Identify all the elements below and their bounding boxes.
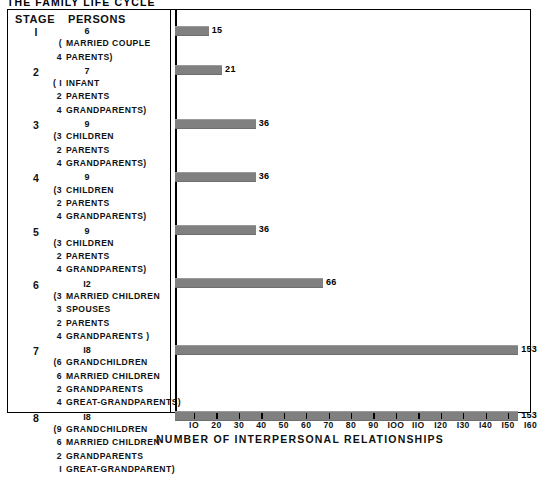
stage-detail-text: MARRIED COUPLE <box>66 38 151 48</box>
x-axis-tick <box>306 413 307 419</box>
bar <box>175 26 209 36</box>
bar <box>175 225 256 235</box>
stage-detail-text: INFANT <box>66 78 100 88</box>
stage-detail-count: 4 <box>36 158 62 168</box>
stage-row: 6I2(3MARRIED CHILDREN3SPOUSES2PARENTS4GR… <box>8 279 170 346</box>
stage-detail-count: 4 <box>36 52 62 62</box>
x-axis-tick <box>463 413 464 419</box>
stage-row: 59(3CHILDREN2PARENTS4GRANDPARENTS) <box>8 226 170 279</box>
stage-row: 27( IINFANT2PARENTS4GRANDPARENTS) <box>8 66 170 119</box>
stage-detail-count: I <box>36 464 62 474</box>
bar-value-label: 36 <box>259 224 270 234</box>
stage-detail-count: ( I <box>36 78 62 88</box>
stage-table-panel: STAGE PERSONS I6(MARRIED COUPLE4PARENTS)… <box>8 10 171 412</box>
bar-value-label: 15 <box>212 25 223 35</box>
stage-detail-text: MARRIED CHILDREN <box>66 291 160 301</box>
stage-detail-text: CHILDREN <box>66 131 114 141</box>
stage-detail-count: 2 <box>36 318 62 328</box>
x-axis-title-text: NUMBER OF INTERPERSONAL RELATIONSHIPS <box>108 433 444 445</box>
stage-detail-count: (6 <box>36 357 62 367</box>
stage-detail-text: CHILDREN <box>66 185 114 195</box>
stage-detail-text: PARENTS <box>66 251 110 261</box>
stage-number: 6 <box>28 279 44 291</box>
bar-value-label: 36 <box>259 171 270 181</box>
bar-value-label: 153 <box>521 344 537 354</box>
figure-frame: STAGE PERSONS I6(MARRIED COUPLE4PARENTS)… <box>7 9 531 413</box>
figure-title: THE FAMILY LIFE CYCLE <box>7 0 156 8</box>
stage-row: 39(3CHILDREN2PARENTS4GRANDPARENTS) <box>8 119 170 172</box>
bar <box>175 119 256 129</box>
stage-detail-text: GRANDPARENTS) <box>66 158 147 168</box>
x-axis-tick <box>441 413 442 419</box>
stage-detail-count: 4 <box>36 211 62 221</box>
stage-detail-text: GREAT-GRANDPARENT) <box>66 464 175 474</box>
stage-detail-count: 6 <box>36 371 62 381</box>
bar-value-label: 66 <box>326 277 337 287</box>
stage-persons-count: 7 <box>76 66 98 76</box>
stage-detail-text: SPOUSES <box>66 304 111 314</box>
x-axis-tick <box>373 413 374 419</box>
x-axis-title: NUMBER OF INTERPERSONAL RELATIONSHIPS <box>0 433 552 445</box>
stage-detail-count: (3 <box>36 185 62 195</box>
column-header-stage: STAGE <box>15 13 55 25</box>
stage-number: 3 <box>28 119 44 131</box>
stage-detail-text: PARENTS <box>66 145 110 155</box>
stage-detail-text: GRANDCHILDREN <box>66 357 148 367</box>
stage-persons-count: I2 <box>76 279 98 289</box>
bar <box>175 172 256 182</box>
x-axis-tick <box>418 413 419 419</box>
stage-detail-text: MARRIED CHILDREN <box>66 371 160 381</box>
stage-row: 7I8(6GRANDCHILDREN6MARRIED CHILDREN2GRAN… <box>8 345 170 412</box>
x-axis-tick <box>329 413 330 419</box>
stage-detail-text: GRANDPARENTS) <box>66 105 147 115</box>
stage-detail-text: GRANDPARENTS <box>66 384 143 394</box>
x-axis-tick <box>508 413 509 419</box>
stage-detail-text: GRANDPARENTS ) <box>66 331 149 341</box>
stage-persons-count: 9 <box>76 226 98 236</box>
table-header-row: STAGE PERSONS <box>8 13 170 27</box>
x-axis-tick <box>486 413 487 419</box>
stage-number: 4 <box>28 172 44 184</box>
stage-detail-text: GRANDPARENTS) <box>66 264 147 274</box>
stage-persons-count: I8 <box>76 345 98 355</box>
stage-number: I <box>28 26 44 38</box>
stage-detail-text: CHILDREN <box>66 238 114 248</box>
stage-detail-count: 2 <box>36 451 62 461</box>
bar <box>175 278 323 288</box>
stage-detail-text: GREAT-GRANDPARENTS) <box>66 397 181 407</box>
bar <box>175 65 222 75</box>
x-axis-tick <box>261 413 262 419</box>
stage-persons-count: 9 <box>76 172 98 182</box>
x-axis-tick-label: I60 <box>518 420 544 430</box>
x-axis: IO2030405060708090IOOIIOI20I30I40I50I60 … <box>0 413 552 445</box>
stage-detail-count: 4 <box>36 331 62 341</box>
stage-detail-text: PARENTS <box>66 198 110 208</box>
stage-number: 7 <box>28 345 44 357</box>
stage-detail-count: ( <box>36 38 62 48</box>
stage-persons-count: 9 <box>76 119 98 129</box>
stage-detail-count: 2 <box>36 91 62 101</box>
x-axis-tick <box>351 413 352 419</box>
stage-detail-count: 4 <box>36 397 62 407</box>
stage-detail-text: PARENTS) <box>66 52 113 62</box>
bar-value-label: 36 <box>259 118 270 128</box>
x-axis-tick <box>396 413 397 419</box>
x-axis-tick <box>194 413 195 419</box>
stage-detail-count: 2 <box>36 145 62 155</box>
stage-number: 5 <box>28 226 44 238</box>
x-axis-tick <box>216 413 217 419</box>
x-axis-tick <box>239 413 240 419</box>
stage-row: 49(3CHILDREN2PARENTS4GRANDPARENTS) <box>8 172 170 225</box>
stage-detail-count: 2 <box>36 251 62 261</box>
stage-detail-count: (3 <box>36 291 62 301</box>
stage-detail-text: GRANDPARENTS <box>66 451 143 461</box>
x-axis-tick <box>284 413 285 419</box>
stage-detail-count: (3 <box>36 238 62 248</box>
stage-detail-count: (3 <box>36 131 62 141</box>
stage-detail-text: PARENTS <box>66 318 110 328</box>
stage-detail-count: 2 <box>36 384 62 394</box>
stage-persons-count: 6 <box>76 26 98 36</box>
bar <box>175 345 518 355</box>
stage-detail-text: PARENTS <box>66 91 110 101</box>
stage-detail-text: GRANDPARENTS) <box>66 211 147 221</box>
